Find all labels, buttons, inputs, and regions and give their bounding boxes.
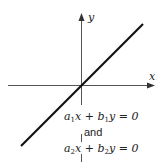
x-axis-label: x	[149, 70, 156, 83]
coordinate-plane: y x a1x + b1y = 0 and a2x + b2y = 0	[0, 0, 164, 166]
y-axis-arrow-icon	[79, 13, 85, 21]
diagram-canvas: y x a1x + b1y = 0 and a2x + b2y = 0	[0, 0, 164, 166]
x-axis-arrow-icon	[147, 83, 155, 89]
equation-2: a2x + b2y = 0	[64, 142, 138, 156]
y-axis-label: y	[87, 11, 95, 24]
connector-and: and	[84, 126, 102, 138]
equation-1: a1x + b1y = 0	[64, 110, 138, 124]
